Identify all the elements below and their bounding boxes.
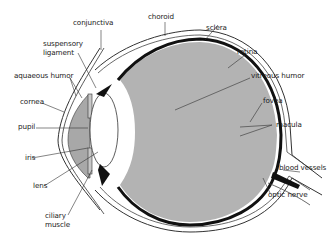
label-conjunctiva: conjunctiva xyxy=(73,19,113,27)
label-aqueous-humor: aquaeous humor xyxy=(14,72,73,80)
label-iris: iris xyxy=(25,154,35,162)
label-lens: lens xyxy=(33,182,47,190)
label-retina: retina xyxy=(237,48,257,56)
label-macula: macula xyxy=(276,121,302,129)
label-fovea: fovea xyxy=(263,97,283,105)
anterior-chamber xyxy=(68,95,90,178)
label-cornea: cornea xyxy=(20,98,44,106)
iris-shape-lower xyxy=(88,148,92,174)
label-pupil: pupil xyxy=(18,123,35,131)
label-optic-nerve: optic nerve xyxy=(268,191,308,199)
lens-shape xyxy=(90,93,118,167)
label-choroid: choroid xyxy=(148,13,174,21)
vitreous-body xyxy=(120,42,277,222)
label-vitreous-humor: vitreous humor xyxy=(251,72,304,80)
label-ciliary-2: muscle xyxy=(45,221,70,229)
label-sclera: sclera xyxy=(206,24,227,32)
ciliary-body-upper xyxy=(96,84,112,97)
label-suspensory-2: ligament xyxy=(43,49,74,57)
label-blood-vessels: blood vessels xyxy=(279,164,326,172)
